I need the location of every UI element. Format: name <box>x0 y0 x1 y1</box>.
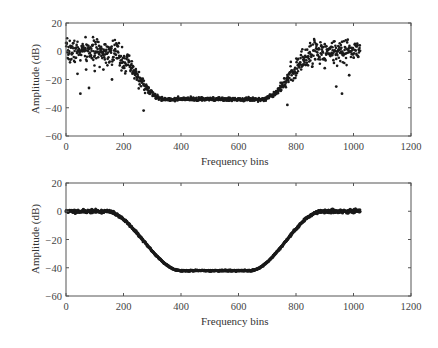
top-chart: 020040060080010001200200−20−40−60 Amplit… <box>0 0 438 170</box>
x-tick-label: 200 <box>116 301 132 312</box>
y-tick-label: 20 <box>52 178 63 189</box>
x-tick-label: 600 <box>231 141 247 152</box>
bottom-chart-y-axis-label: Amplitude (dB) <box>29 199 41 279</box>
top-chart-y-axis-label: Amplitude (dB) <box>29 39 41 119</box>
x-tick-label: 0 <box>63 141 68 152</box>
x-tick-label: 1200 <box>401 301 422 312</box>
x-tick-label: 400 <box>173 141 189 152</box>
y-tick-label: −40 <box>46 103 62 114</box>
x-tick-label: 200 <box>116 141 132 152</box>
y-tick-label: −20 <box>46 235 62 246</box>
x-tick-label: 800 <box>288 141 304 152</box>
x-tick-label: 1000 <box>343 301 364 312</box>
axes-frame <box>66 183 411 296</box>
x-tick-label: 400 <box>173 301 189 312</box>
x-tick-label: 800 <box>288 301 304 312</box>
bottom-chart-plot: 020040060080010001200200−20−40−60 <box>0 160 438 330</box>
y-tick-label: −40 <box>46 263 62 274</box>
y-tick-label: 0 <box>57 46 62 57</box>
x-tick-label: 600 <box>231 301 247 312</box>
bottom-chart-x-axis-label: Frequency bins <box>201 315 269 327</box>
y-tick-label: 20 <box>52 18 63 29</box>
data-points <box>65 36 362 112</box>
top-chart-plot: 020040060080010001200200−20−40−60 <box>0 0 438 170</box>
data-points <box>65 207 362 273</box>
bottom-chart: 020040060080010001200200−20−40−60 Amplit… <box>0 160 438 330</box>
y-tick-label: −60 <box>46 291 62 302</box>
x-tick-label: 1200 <box>401 141 422 152</box>
y-tick-label: −20 <box>46 75 62 86</box>
y-tick-label: 0 <box>57 206 62 217</box>
axes-frame <box>66 23 411 136</box>
y-tick-label: −60 <box>46 131 62 142</box>
x-tick-label: 1000 <box>343 141 364 152</box>
x-tick-label: 0 <box>63 301 68 312</box>
